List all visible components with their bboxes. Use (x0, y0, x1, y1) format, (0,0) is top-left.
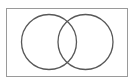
figure-border (7, 9, 128, 77)
venn-diagram-figure (0, 0, 135, 84)
venn-diagram-canvas (0, 0, 135, 84)
